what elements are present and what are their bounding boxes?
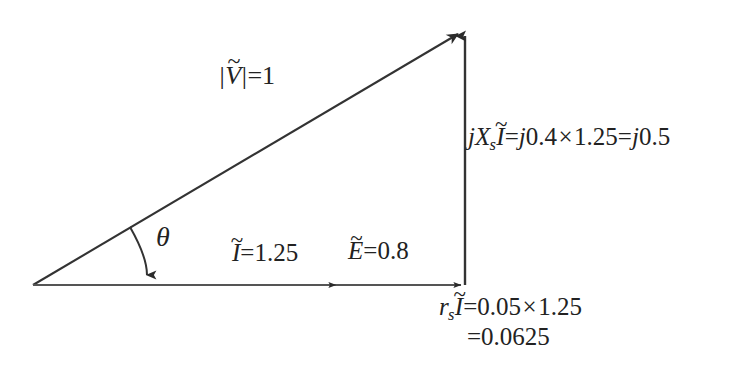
current-symbol-base: I xyxy=(496,123,504,150)
current-symbol-base: I xyxy=(232,239,240,266)
current-value: =1.25 xyxy=(240,239,298,266)
phasor-diagram-figure: |V~|=1 jXsI~=j0.4×1.25=j0.5 θ I~=1.25 E~… xyxy=(0,0,730,368)
equals-1: = xyxy=(505,123,519,150)
multiply-sign: × xyxy=(521,293,538,320)
current-value-reactance: 1.25 xyxy=(574,123,618,150)
resistance-drop-result: =0.0625 xyxy=(439,324,582,350)
j-operator-3: j xyxy=(632,123,639,150)
current-phasor-label: I~=1.25 xyxy=(232,240,298,266)
emf-value: =0.8 xyxy=(363,237,408,264)
current-symbol-reactance: I~ xyxy=(496,124,504,150)
multiply-sign: × xyxy=(557,123,574,150)
resistance-subscript: s xyxy=(448,305,454,324)
j-operator-1: j xyxy=(468,123,475,150)
current-symbol: I~ xyxy=(232,240,240,266)
emf-phasor-label: E~=0.8 xyxy=(348,238,409,264)
voltage-magnitude-label: |V~|=1 xyxy=(219,62,275,89)
reactance-value: 0.4 xyxy=(526,123,557,150)
current-symbol-resistance: I~ xyxy=(455,294,463,320)
reactance-symbol: X xyxy=(475,123,490,150)
resistance-voltage-drop-label: rsI~=0.05×1.25 =0.0625 xyxy=(439,294,582,350)
phasor-diagram-canvas xyxy=(0,0,730,368)
equals-1: = xyxy=(463,293,477,320)
emf-symbol: E~ xyxy=(348,238,363,264)
resistance-drop-line-1: rsI~=0.05×1.25 xyxy=(439,293,582,320)
j-operator-2: j xyxy=(519,123,526,150)
reactance-drop-result: 0.5 xyxy=(639,123,670,150)
power-factor-angle-label: θ xyxy=(156,222,170,251)
emf-symbol-base: E xyxy=(348,237,363,264)
voltage-symbol: V~ xyxy=(225,62,241,89)
reactance-voltage-drop-label: jXsI~=j0.4×1.25=j0.5 xyxy=(468,124,670,153)
voltage-value: =1 xyxy=(247,61,275,90)
current-symbol-base: I xyxy=(455,293,463,320)
power-factor-angle-arc xyxy=(130,227,147,275)
resistance-value: 0.05 xyxy=(477,293,521,320)
voltage-symbol-base: V xyxy=(225,61,241,90)
current-value-resistance: 1.25 xyxy=(538,293,582,320)
equals-2: = xyxy=(618,123,632,150)
